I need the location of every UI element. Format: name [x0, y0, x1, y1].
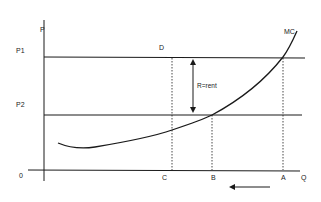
p1-label: P1: [16, 47, 25, 55]
c-label: C: [162, 174, 167, 182]
demand-label: D: [159, 44, 164, 52]
mc-label: MC: [284, 28, 295, 36]
x-axis-label: Q: [301, 174, 306, 182]
economic-rent-diagram: P P1 P2 0 D MC R=rent C B A Q: [0, 0, 321, 202]
y-axis-label: P: [40, 26, 45, 34]
a-label: A: [281, 174, 286, 182]
p2-label: P2: [16, 101, 25, 109]
mc-curve: [58, 31, 297, 148]
origin-label: 0: [19, 172, 23, 180]
b-label: B: [211, 174, 216, 182]
x-axis: [28, 170, 300, 171]
p1-demand-line: [44, 57, 305, 58]
rent-label: R=rent: [197, 82, 217, 90]
diagram-canvas: [0, 0, 321, 202]
